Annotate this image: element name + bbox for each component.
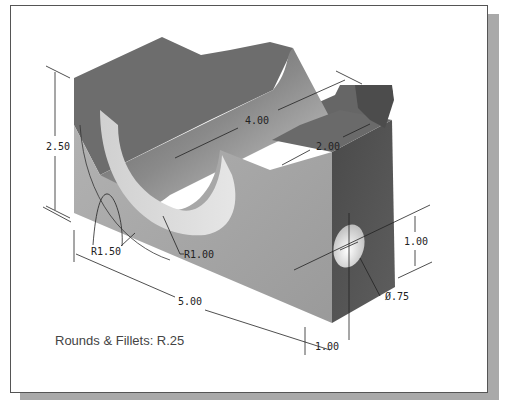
dim-length: 5.00 bbox=[178, 296, 202, 307]
dim-slot-width: 2.00 bbox=[316, 141, 340, 152]
dim-hole-diameter: Ø.75 bbox=[385, 291, 409, 302]
part-body bbox=[74, 37, 395, 323]
rounds-fillets-note: Rounds & Fillets: R.25 bbox=[55, 333, 184, 348]
dim-hole-offset: 1.00 bbox=[315, 341, 339, 352]
dim-height: 2.50 bbox=[46, 141, 70, 152]
dim-hole-height: 1.00 bbox=[404, 236, 428, 247]
dim-groove-length: 4.00 bbox=[245, 115, 269, 126]
dim-outer-radius: R1.50 bbox=[91, 246, 121, 257]
dim-inner-radius: R1.00 bbox=[184, 249, 214, 260]
